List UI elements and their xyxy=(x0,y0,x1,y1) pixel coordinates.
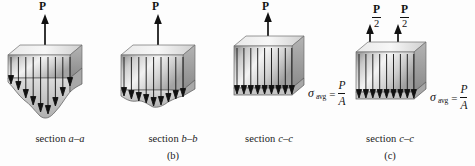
force-label-p-over-2-right: P 2 xyxy=(400,4,409,30)
fraction-denominator: A xyxy=(338,96,345,108)
caption-section-c-c: section c–c xyxy=(348,133,432,144)
fraction-bar xyxy=(460,97,467,98)
force-numerator-right: P xyxy=(400,4,409,16)
force-denominator-right: 2 xyxy=(400,19,409,30)
fraction-numerator: P xyxy=(460,84,467,96)
caption-section-b-b: section b–b xyxy=(113,133,233,144)
equals-sign: = xyxy=(328,88,336,100)
stress-arrows xyxy=(121,57,185,106)
panel-section-c-c-single: P σavg = P A section c–c xyxy=(228,0,358,166)
sigma-subscript: avg xyxy=(316,92,326,101)
stress-arrows xyxy=(8,57,72,114)
p-over-a-fraction: P A xyxy=(460,84,467,111)
force-denominator-left: 2 xyxy=(372,19,381,30)
stress-distribution-figure: P section a–a xyxy=(0,0,475,166)
caption-section-a-a: section a–a xyxy=(0,133,120,144)
bar-block xyxy=(356,42,426,92)
sigma-symbol: σ xyxy=(308,86,314,101)
sigma-symbol: σ xyxy=(430,90,436,105)
force-numerator-left: P xyxy=(372,4,381,16)
fraction-numerator: P xyxy=(338,80,345,92)
subcaption-c: (c) xyxy=(348,150,432,161)
panel-b-graphic xyxy=(113,0,233,130)
equals-sign: = xyxy=(450,92,458,104)
force-label-p: P xyxy=(262,0,269,12)
panel-c-graphic xyxy=(228,0,358,130)
sigma-subscript: avg xyxy=(438,96,448,105)
panel-section-b-b: P section b–b (b) xyxy=(113,0,233,166)
force-label-p: P xyxy=(39,0,46,12)
panel-a-graphic xyxy=(0,0,120,130)
bar-block xyxy=(234,36,304,88)
panel-section-a-a: P section a–a xyxy=(0,0,120,166)
force-label-p-over-2-left: P 2 xyxy=(372,4,381,30)
formula-sigma-avg: σavg = P A xyxy=(430,84,467,111)
panel-section-c-c-split: P 2 P 2 σavg = P A section c–c (c) xyxy=(348,0,475,166)
p-over-a-fraction: P A xyxy=(338,80,345,107)
fraction-denominator: A xyxy=(460,100,467,112)
caption-section-c-c: section c–c xyxy=(228,133,310,144)
force-label-p: P xyxy=(152,0,159,12)
bar-block xyxy=(8,45,82,78)
fraction-bar xyxy=(338,93,345,94)
subcaption-b: (b) xyxy=(113,150,233,161)
formula-sigma-avg: σavg = P A xyxy=(308,80,345,107)
bar-block xyxy=(121,45,195,90)
